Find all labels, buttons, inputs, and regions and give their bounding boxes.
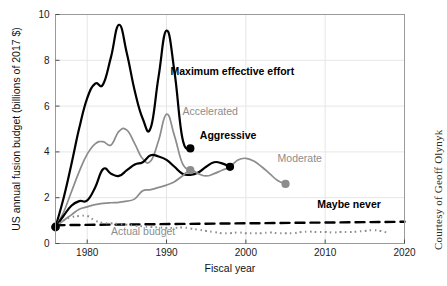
y-tick-label: 0 [44, 238, 50, 249]
end-marker-aggressive [226, 163, 234, 171]
fusion-budget-chart: 198019902000201020200246810 Maximum effe… [0, 0, 447, 286]
annotation-actual-budget: Actual budget [111, 225, 175, 237]
annotation-maximum-effective-effort: Maximum effective effort [171, 65, 295, 77]
x-tick-label: 1990 [155, 247, 178, 258]
annotation-accelerated: Accelerated [182, 105, 238, 117]
credit-text: Courtesy of Geoff Olynyk [432, 130, 444, 250]
y-tick-label: 6 [44, 101, 50, 112]
end-marker-accelerated [186, 166, 194, 174]
x-tick-label: 1980 [76, 247, 99, 258]
annotation-aggressive: Aggressive [200, 129, 257, 141]
annotation-maybe-never: Maybe never [317, 198, 381, 210]
x-axis-title: Fiscal year [205, 262, 256, 274]
y-axis-title: US annual fusion budget (billions of 201… [10, 27, 22, 231]
end-marker-moderate [281, 180, 289, 188]
end-marker-maximum-effective-effort [186, 144, 194, 152]
annotation-moderate: Moderate [278, 152, 323, 164]
y-tick-label: 10 [38, 9, 50, 20]
x-tick-label: 2010 [314, 247, 337, 258]
x-tick-label: 2000 [235, 247, 258, 258]
y-tick-label: 4 [44, 146, 50, 157]
y-tick-label: 8 [44, 55, 50, 66]
y-tick-label: 2 [44, 192, 50, 203]
figure-container: 198019902000201020200246810 Maximum effe… [0, 0, 447, 286]
x-tick-label: 2020 [393, 247, 416, 258]
